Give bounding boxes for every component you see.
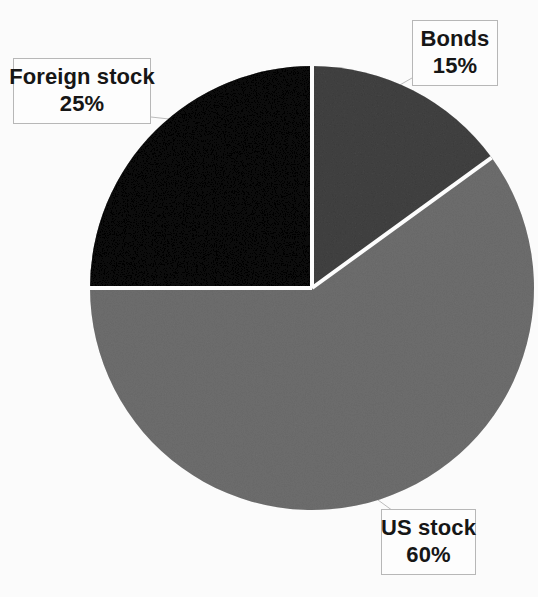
callout-foreign-stock[interactable]: Foreign stock 25% [13,58,151,124]
callout-us-stock-name: US stock [381,515,476,542]
pie-chart-figure: Bonds 15% Foreign stock 25% US stock 60% [0,0,538,597]
callout-bonds-name: Bonds [421,26,490,53]
callout-foreign-stock-name: Foreign stock [9,64,155,91]
callout-bonds-value: 15% [433,53,477,80]
callout-us-stock-value: 60% [406,542,450,569]
callout-us-stock[interactable]: US stock 60% [381,509,476,575]
callout-foreign-stock-value: 25% [60,91,104,118]
callout-bonds[interactable]: Bonds 15% [412,20,498,86]
